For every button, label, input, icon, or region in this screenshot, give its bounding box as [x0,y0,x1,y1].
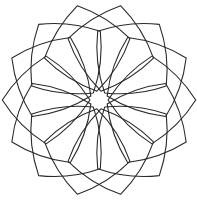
curved-square-outline [40,104,135,199]
rosette-figure [0,0,197,204]
curved-square-outline [94,21,170,97]
curved-square-outline [63,104,158,199]
curved-square-outline [94,103,170,179]
curved-square-outline [63,1,158,96]
curved-square-outline [40,1,135,96]
rosette-pattern [0,1,197,199]
curved-square-outline [28,21,104,97]
curved-square-outline [28,103,104,179]
